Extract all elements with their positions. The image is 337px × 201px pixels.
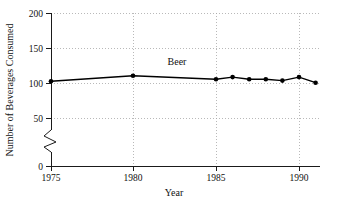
ytick-label-100: 100: [29, 79, 44, 89]
series-beer-line: [51, 76, 316, 83]
ytick-label-150: 150: [29, 44, 44, 54]
series-beer-point-1986: [230, 75, 235, 80]
beverages-consumed-line-chart: 200 150 100 50 0 1975 1980 1985 1990 Yea…: [0, 0, 337, 201]
y-axis-break-symbol: [44, 130, 56, 152]
x-axis: [51, 166, 320, 171]
x-tick-labels: 1975 1980 1985 1990: [42, 173, 309, 183]
y-axis: [44, 13, 56, 166]
series-beer-point-1988: [264, 77, 269, 82]
ytick-label-200: 200: [29, 9, 44, 19]
series-beer-point-1980: [131, 73, 136, 78]
series-beer-point-1987: [247, 77, 252, 82]
ytick-label-50: 50: [34, 114, 44, 124]
series-beer-point-1975: [49, 79, 54, 84]
series-beer-point-1985: [214, 77, 219, 82]
chart-figure: 200 150 100 50 0 1975 1980 1985 1990 Yea…: [0, 0, 337, 201]
xtick-label-1980: 1980: [124, 173, 143, 183]
vertical-gridlines: [133, 13, 299, 166]
series-beer-point-1991: [313, 80, 318, 85]
x-axis-title: Year: [165, 187, 184, 198]
series-label-beer: Beer: [168, 56, 188, 67]
xtick-label-1990: 1990: [290, 173, 309, 183]
ytick-label-0: 0: [38, 162, 43, 172]
series-beer-point-1990: [297, 75, 302, 80]
series-beer-point-1989: [280, 78, 285, 83]
xtick-label-1985: 1985: [207, 173, 226, 183]
y-tick-labels: 200 150 100 50 0: [29, 9, 44, 172]
xtick-label-1975: 1975: [42, 173, 61, 183]
y-axis-title: Number of Beverages Consumed: [4, 23, 15, 156]
